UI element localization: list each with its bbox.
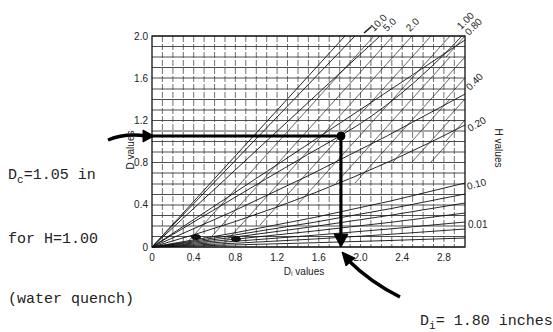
svg-text:1.6: 1.6 — [312, 252, 326, 263]
dc-annotation: Dc=1.05 in for H=1.00 (water quench) — [8, 126, 134, 330]
h10-arrow — [364, 27, 371, 33]
svg-text:0.20: 0.20 — [466, 114, 489, 133]
di-annotation: Di= 1.80 inches — [402, 292, 553, 332]
svg-text:1.6: 1.6 — [134, 73, 148, 84]
dc-line-1: Dc=1.05 in — [8, 166, 134, 190]
svg-text:0.10: 0.10 — [466, 176, 488, 192]
dc-line-3: (water quench) — [8, 290, 134, 310]
di-arrow — [348, 260, 400, 297]
svg-text:0.4: 0.4 — [134, 199, 148, 210]
dc-line-2: for H=1.00 — [8, 230, 134, 250]
y-tick-labels: 0 0.4 0.8 1.2 1.6 2.0 — [134, 31, 148, 253]
svg-text:2.0: 2.0 — [354, 252, 368, 263]
svg-text:1.2: 1.2 — [270, 252, 284, 263]
svg-text:0.01: 0.01 — [468, 219, 488, 230]
svg-text:0.40: 0.40 — [464, 71, 486, 93]
svg-text:1.2: 1.2 — [134, 115, 148, 126]
h-axis-label: H values — [493, 129, 504, 168]
h-value-labels: 10.0 5.0 2.0 1.00 0.80 0.40 0.20 0.10 0.… — [368, 10, 489, 230]
svg-text:2.0: 2.0 — [404, 15, 422, 33]
down-arrowhead — [334, 234, 348, 247]
x-tick-labels: 0 0.4 0.8 1.2 1.6 2.0 2.4 2.8 — [149, 252, 451, 263]
svg-text:0.4: 0.4 — [187, 252, 201, 263]
svg-text:0: 0 — [149, 252, 155, 263]
svg-text:2.8: 2.8 — [437, 252, 451, 263]
svg-text:0.8: 0.8 — [228, 252, 242, 263]
svg-text:2.0: 2.0 — [134, 31, 148, 42]
svg-text:0.8: 0.8 — [134, 157, 148, 168]
svg-text:2.4: 2.4 — [395, 252, 409, 263]
x-axis-label: Dᵢ values — [284, 266, 324, 277]
svg-text:0: 0 — [142, 242, 148, 253]
intersection-point — [337, 132, 345, 140]
